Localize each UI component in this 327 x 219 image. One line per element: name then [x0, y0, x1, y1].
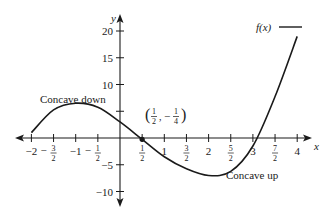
svg-text:2: 2: [273, 154, 277, 163]
svg-text:2: 2: [152, 117, 156, 126]
x-tick-label: −1: [70, 145, 82, 157]
function-graph: y x −2−32−1−12121322523724 201510−5−10 (…: [0, 0, 327, 219]
svg-text:−: −: [164, 110, 170, 122]
legend-label: f(x): [256, 21, 272, 34]
svg-text:,: ,: [159, 111, 162, 122]
y-axis-label: y: [110, 12, 116, 24]
inflection-point-marker: [140, 137, 145, 142]
svg-text:1: 1: [140, 144, 144, 153]
x-tick-label: −12: [85, 144, 101, 163]
svg-text:1: 1: [96, 144, 100, 153]
svg-text:2: 2: [96, 154, 100, 163]
svg-text:): ): [181, 106, 186, 124]
x-tick-label: 72: [272, 144, 278, 163]
x-tick-label: 12: [139, 144, 145, 163]
svg-text:−: −: [40, 144, 46, 156]
y-tick-label: 10: [102, 79, 114, 91]
y-tick-label: 20: [102, 25, 114, 37]
y-tick-label: −5: [101, 159, 113, 171]
legend: f(x): [256, 21, 302, 34]
svg-text:(: (: [145, 106, 150, 124]
x-tick-label: −2: [26, 145, 38, 157]
svg-text:−: −: [85, 144, 91, 156]
x-axis-label: x: [313, 140, 319, 152]
concave-down-label: Concave down: [40, 93, 106, 105]
concave-up-label: Concave up: [226, 169, 279, 181]
svg-text:2: 2: [140, 154, 144, 163]
y-tick-label: −10: [96, 186, 114, 198]
svg-text:3: 3: [184, 144, 188, 153]
svg-text:1: 1: [152, 107, 156, 116]
svg-text:3: 3: [52, 144, 56, 153]
svg-text:2: 2: [184, 154, 188, 163]
svg-text:2: 2: [52, 154, 56, 163]
x-tick-label: 4: [294, 145, 300, 157]
svg-text:1: 1: [174, 107, 178, 116]
inflection-point-label: (12,−14): [145, 106, 186, 126]
svg-text:4: 4: [174, 117, 178, 126]
y-tick-label: 15: [102, 52, 114, 64]
x-tick-label: 52: [228, 144, 234, 163]
svg-text:7: 7: [273, 144, 277, 153]
svg-text:5: 5: [229, 144, 233, 153]
x-tick-label: 32: [183, 144, 189, 163]
x-tick-label: −32: [40, 144, 56, 163]
svg-text:2: 2: [229, 154, 233, 163]
x-tick-label: 2: [206, 145, 212, 157]
